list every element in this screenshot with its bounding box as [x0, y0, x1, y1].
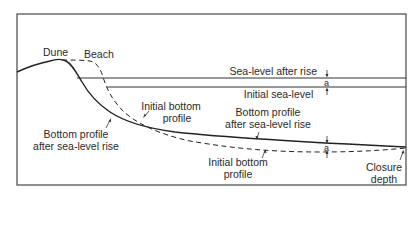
- label-bottom-after-rise-left-line1: Bottom profile: [28, 128, 124, 140]
- label-initial-bottom-upper-line1: Initial bottom: [136, 100, 206, 112]
- label-bottom-after-rise-right-line1: Bottom profile: [220, 106, 316, 118]
- label-bottom-after-rise-left: Bottom profile after sea-level rise: [28, 128, 124, 152]
- label-closure-depth-line1: Closure: [362, 161, 406, 173]
- label-sea-level-after-rise: Sea-level after rise: [215, 65, 317, 77]
- label-initial-bottom-lower-line1: Initial bottom: [203, 156, 273, 168]
- label-bottom-after-rise-right: Bottom profile after sea-level rise: [220, 106, 316, 130]
- label-beach: Beach: [84, 48, 114, 60]
- leader-bottom-after-rise-left: [106, 118, 111, 128]
- label-initial-bottom-profile-upper: Initial bottom profile: [136, 100, 206, 124]
- label-initial-sea-level: Initial sea-level: [240, 88, 317, 100]
- label-bottom-after-rise-left-line2: after sea-level rise: [28, 140, 124, 152]
- label-bottom-after-rise-right-line2: after sea-level rise: [220, 118, 316, 130]
- label-dune: Dune: [43, 46, 68, 58]
- label-initial-bottom-upper-line2: profile: [136, 112, 206, 124]
- label-closure-depth: Closure depth: [362, 161, 406, 185]
- label-rise-a-bottom: a: [324, 142, 329, 154]
- label-initial-bottom-profile-lower: Initial bottom profile: [203, 156, 273, 180]
- label-initial-bottom-lower-line2: profile: [203, 168, 273, 180]
- leader-closure-depth: [400, 150, 405, 160]
- label-closure-depth-line2: depth: [362, 173, 406, 185]
- label-rise-a-top: a: [324, 77, 329, 89]
